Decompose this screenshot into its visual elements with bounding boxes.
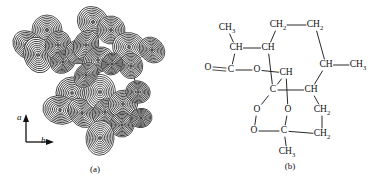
a-axis-label: a xyxy=(17,113,22,122)
contour-atom-center xyxy=(71,92,73,94)
atom-label-o-ester: O xyxy=(254,64,261,74)
atom-label-ch-ring-upper: CH xyxy=(279,67,292,77)
chemical-bond xyxy=(289,131,313,133)
chemical-bond-double-line xyxy=(213,67,226,68)
atom-label-ch-top-mid: CH xyxy=(261,42,274,52)
chemical-bond xyxy=(269,54,273,84)
contour-atom-center xyxy=(92,21,94,23)
contour-atom-center xyxy=(122,103,124,105)
structure-atom-labels: CH3CHCHCH2CH2OCOCHCCHCH3CHOOOCCH2CH2CH3 xyxy=(205,19,367,157)
chemical-bond xyxy=(286,79,287,104)
contour-atom-center xyxy=(110,29,112,31)
chemical-bond xyxy=(271,31,276,42)
contour-atom-center xyxy=(111,63,113,65)
electron-density-contour-svg xyxy=(0,0,192,187)
contour-atom-center xyxy=(81,112,83,114)
contour-atom-center xyxy=(97,59,99,61)
contour-atom-center xyxy=(99,91,101,93)
contour-atom-center xyxy=(57,44,59,46)
atom-label-c-quaternary: C xyxy=(270,84,276,94)
contour-atom-center xyxy=(46,29,48,31)
atom-label-c-carbonyl: C xyxy=(228,64,234,74)
contour-atom-center xyxy=(140,117,142,119)
contour-atom-center xyxy=(121,124,123,126)
contour-atom-center xyxy=(85,44,87,46)
atom-label-o-carbonyl: O xyxy=(205,62,212,72)
chemical-bond xyxy=(317,31,325,59)
crystal-axes-indicator xyxy=(16,110,66,155)
chemical-bond xyxy=(277,79,281,84)
chemical-bond xyxy=(255,116,256,125)
panel-a-contour-map: a b (a) xyxy=(0,0,192,187)
chemical-bond xyxy=(314,96,319,104)
contour-atom-center xyxy=(62,61,64,63)
b-axis-arrowhead xyxy=(46,139,54,145)
chemical-bond xyxy=(285,116,287,125)
chemical-bond xyxy=(315,71,323,84)
artemisinin-structure-svg: CH3CHCHCH2CH2OCOCHCCHCH3CHOOOCCH2CH2CH3 xyxy=(192,0,385,187)
chemical-bond xyxy=(232,54,234,64)
b-axis-label: b xyxy=(41,136,46,145)
chemical-bond xyxy=(230,34,234,42)
chemical-bond-double-line xyxy=(213,70,226,71)
atom-label-c-acetal: C xyxy=(281,125,287,135)
figure-container: a b (a) CH3CHCHCH2CH2OCOCHCCHCH3CHOOOCCH… xyxy=(0,0,385,187)
contour-atom-center xyxy=(104,111,106,113)
chemical-bond xyxy=(262,96,269,104)
atom-label-o-peroxide-2: O xyxy=(251,125,258,135)
panel-a-caption: (a) xyxy=(70,165,120,174)
contour-atom-center xyxy=(130,65,132,67)
panel-b-structural-formula: CH3CHCHCH2CH2OCOCHCCHCH3CHOOOCCH2CH2CH3 … xyxy=(192,0,385,187)
contour-atom-center xyxy=(137,91,139,93)
atom-label-o-acetal: O xyxy=(285,104,292,114)
atom-label-ch-left: CH xyxy=(229,42,242,52)
contour-atom-center xyxy=(37,54,39,56)
atom-label-o-peroxide-1: O xyxy=(254,104,261,114)
chemical-bond xyxy=(285,137,286,146)
panel-b-caption: (b) xyxy=(265,162,315,171)
atom-label-ch-right-upper: CH xyxy=(319,59,332,69)
atom-label-ch-right-lower: CH xyxy=(304,84,317,94)
contour-atom-center xyxy=(99,137,101,139)
contour-atom-center xyxy=(85,74,87,76)
a-axis-arrowhead xyxy=(23,114,29,122)
contour-atom-center xyxy=(151,49,153,51)
contour-atom-center xyxy=(128,46,130,48)
